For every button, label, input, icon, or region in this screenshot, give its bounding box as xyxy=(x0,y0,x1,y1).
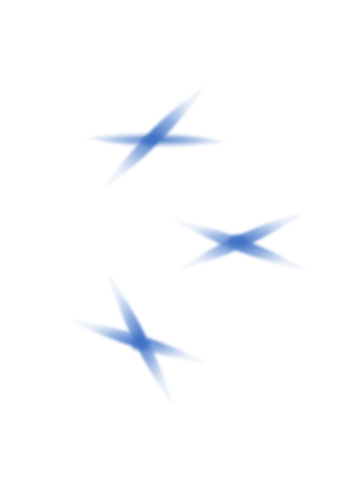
cross-top-left-icon xyxy=(86,86,226,188)
cross-bottom-left-icon xyxy=(70,272,207,405)
watercolor-crosses xyxy=(0,0,361,487)
cross-center xyxy=(131,339,149,351)
cross-center xyxy=(228,234,246,246)
cross-center xyxy=(141,134,159,146)
cross-middle-right-icon xyxy=(174,212,306,270)
painting-canvas: Three soft blue watercolor-style X shape… xyxy=(0,0,361,487)
